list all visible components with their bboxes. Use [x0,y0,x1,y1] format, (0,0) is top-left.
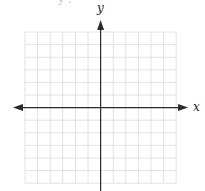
x-axis-arrow-right-icon [178,104,188,111]
y-axis-arrow-up-icon [97,20,104,30]
coordinate-plane [0,0,205,191]
x-axis-label: x [193,101,200,113]
axes [13,20,188,191]
x-axis-arrow-left-icon [13,104,23,111]
y-axis-label: y [97,2,104,14]
